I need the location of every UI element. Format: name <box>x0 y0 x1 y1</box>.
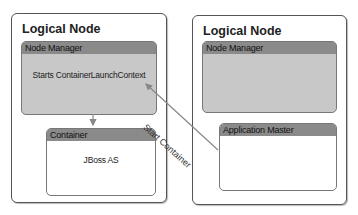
edges-layer <box>0 0 358 215</box>
